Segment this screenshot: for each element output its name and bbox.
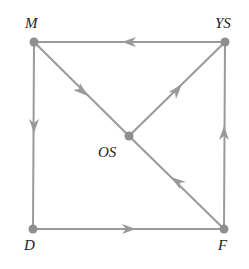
node-label-ys: YS xyxy=(215,16,231,31)
node-ys xyxy=(221,38,230,47)
arrowhead-up-left-icon xyxy=(171,177,186,189)
arrowhead-up-right-icon xyxy=(169,84,182,99)
node-m xyxy=(30,38,39,47)
node-label-f: F xyxy=(218,238,227,253)
node-label-os: OS xyxy=(98,145,116,160)
graph-canvas xyxy=(0,0,249,269)
node-d xyxy=(29,225,38,234)
node-f xyxy=(220,225,229,234)
arrowhead-down-right-icon xyxy=(73,83,88,96)
node-label-d: D xyxy=(24,238,35,253)
edge-m-d xyxy=(33,42,34,229)
node-label-m: M xyxy=(25,16,38,31)
node-os xyxy=(125,132,134,141)
